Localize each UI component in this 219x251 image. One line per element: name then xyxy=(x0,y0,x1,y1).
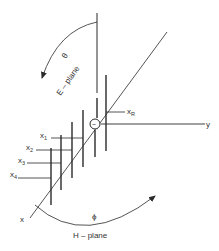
x-axis-label: x xyxy=(20,215,24,224)
h-plane-label: H – plane xyxy=(73,231,108,240)
director-label-3: x3 xyxy=(18,156,25,166)
director-label-2: x2 xyxy=(26,143,33,153)
e-plane-label: E – plane xyxy=(55,64,82,97)
y-axis-label: y xyxy=(206,120,210,129)
director-label-4: x4 xyxy=(10,170,17,180)
phi-label: ϕ xyxy=(92,212,97,221)
source-symbol: ~ xyxy=(92,121,96,128)
diagram-svg: ~ θ E – plane xR y x x1 x2 x3 x4 ϕ H – p… xyxy=(0,0,219,251)
reflector-label: xR xyxy=(127,107,135,117)
antenna-diagram: ~ θ E – plane xR y x x1 x2 x3 x4 ϕ H – p… xyxy=(0,0,219,251)
theta-label: θ xyxy=(60,51,70,60)
director-label-1: x1 xyxy=(40,131,47,141)
h-plane-arc xyxy=(35,196,155,225)
